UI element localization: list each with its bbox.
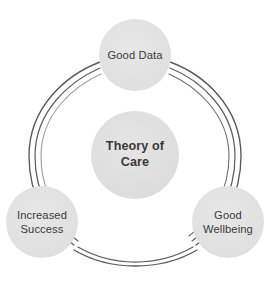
node-good-wellbeing[interactable] (192, 186, 264, 258)
node-increased-success[interactable] (6, 186, 78, 258)
node-good-data[interactable] (99, 19, 171, 91)
theory-of-care-diagram: Good Data Theory of Care Increased Succe… (0, 0, 271, 290)
node-theory-of-care[interactable] (91, 111, 179, 199)
diagram-canvas (0, 0, 271, 290)
ring-arc-outer-bottom (74, 250, 197, 266)
